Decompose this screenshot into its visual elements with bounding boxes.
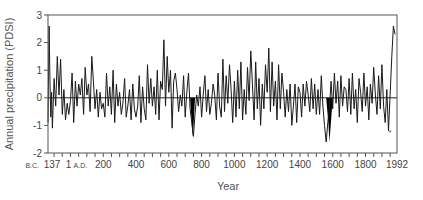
- x-tick-label: 1000: [223, 159, 246, 170]
- x-tick-label: 800: [193, 159, 210, 170]
- ad-era-label: A.D.: [74, 162, 88, 169]
- bc-era-label: B.C.: [25, 162, 39, 169]
- y-axis: 3210-1-2: [33, 10, 48, 159]
- x-tick-label: 1992: [386, 159, 409, 170]
- x-tick-label: 1200: [256, 159, 279, 170]
- asterisk-annotation: *: [389, 129, 392, 136]
- y-tick-label: -1: [33, 120, 42, 131]
- pdsi-chart: 3210-1-2 B.C.1371A.D.2004006008001000120…: [0, 0, 423, 200]
- x-tick-label: 400: [128, 159, 145, 170]
- y-tick-label: 0: [36, 92, 42, 103]
- y-tick-label: -2: [33, 148, 42, 159]
- y-tick-label: 2: [36, 37, 42, 48]
- x-tick-label: 600: [160, 159, 177, 170]
- y-axis-title: Annual precipitation (PDSI): [3, 18, 15, 151]
- x-axis-title: Year: [217, 180, 240, 192]
- x-tick-label: 1600: [322, 159, 345, 170]
- x-tick-label: 1800: [354, 159, 377, 170]
- x-tick-label: 137: [44, 159, 61, 170]
- pdsi-series-line: [48, 26, 395, 142]
- y-tick-label: 1: [36, 65, 42, 76]
- x-tick-label: 1: [66, 159, 72, 170]
- x-tick-label: 200: [95, 159, 112, 170]
- x-axis: B.C.1371A.D.2004006008001000120014001600…: [25, 153, 408, 170]
- x-tick-label: 1400: [289, 159, 312, 170]
- y-tick-label: 3: [36, 10, 42, 21]
